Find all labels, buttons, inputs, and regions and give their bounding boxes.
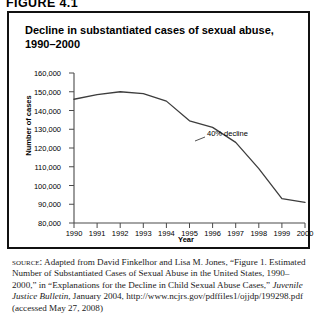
annotation-leader-line	[195, 137, 205, 141]
source-text-part-1: Adapted from David Finkelhor and Lisa M.…	[12, 257, 305, 290]
source-label: source:	[12, 256, 42, 267]
chart-plot-area: 160,000 150,000 140,000 130,000 120,000 …	[9, 13, 312, 251]
y-axis-title: Number of cases	[24, 91, 33, 161]
source-note: source: Adapted from David Finkelhor and…	[12, 256, 312, 314]
y-tick-label-160000: 160,000	[19, 69, 61, 78]
x-axis-ticks	[74, 223, 305, 228]
y-axis-ticks	[69, 73, 74, 223]
figure-container: FIGURE 4.1 Decline in substantiated case…	[0, 0, 324, 319]
decline-annotation: 40% decline	[207, 129, 248, 138]
y-tick-label-100000: 100,000	[19, 182, 61, 191]
y-tick-label-110000: 110,000	[19, 163, 61, 172]
figure-box: Decline in substantiated cases of sexual…	[7, 11, 310, 249]
y-tick-label-80000: 80,000	[19, 219, 61, 228]
y-tick-label-90000: 90,000	[19, 200, 61, 209]
figure-number-label: FIGURE 4.1	[6, 0, 78, 10]
x-axis-title: Year	[61, 235, 311, 244]
data-series-line	[74, 92, 305, 203]
